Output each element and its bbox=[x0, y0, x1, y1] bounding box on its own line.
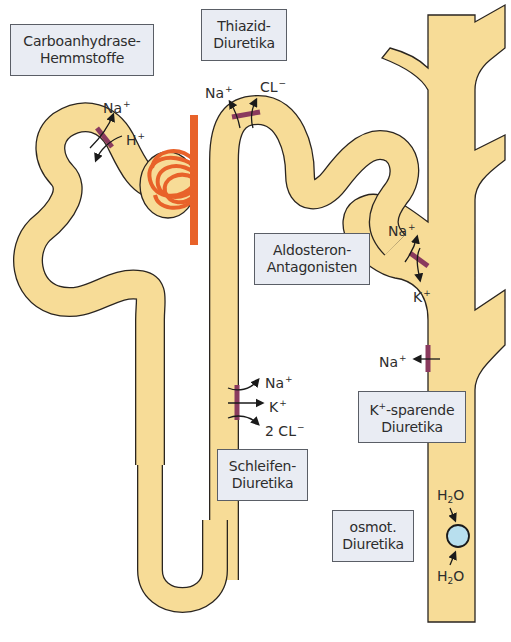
water-label-bottom: H2O bbox=[437, 569, 464, 588]
label-sup: + bbox=[379, 401, 386, 411]
nephron-diagram bbox=[0, 0, 511, 642]
aldosterone-antagonists-label: Aldosteron- Antagonisten bbox=[254, 233, 370, 285]
ion-charge: + bbox=[423, 288, 431, 298]
water-label-top: H2O bbox=[437, 488, 464, 507]
label-suffix: -sparende bbox=[386, 402, 454, 418]
label-line: Antagonisten bbox=[267, 259, 358, 276]
ion-charge: + bbox=[123, 99, 131, 109]
ion-text: Na bbox=[388, 223, 407, 239]
label-line: Aldosteron- bbox=[273, 242, 351, 259]
label-line: K+-sparende bbox=[370, 398, 455, 419]
ion-text: K bbox=[413, 289, 422, 305]
ion-text: K bbox=[269, 399, 278, 415]
loop-diuretics-label: Schleifen- Diuretika bbox=[217, 449, 308, 501]
ion-charge: − bbox=[297, 422, 305, 432]
potassium-sparing-diuretics-label: K+-sparende Diuretika bbox=[358, 391, 466, 443]
carboanhydrase-inhibitor-label: Carboanhydrase- Hemmstoffe bbox=[10, 24, 154, 76]
ion-text: Na bbox=[265, 375, 284, 391]
ion-cl-distal: CL− bbox=[260, 76, 286, 94]
ion-k-loop: K+ bbox=[269, 396, 287, 414]
ion-text: H bbox=[437, 487, 448, 503]
ion-text: Na bbox=[103, 100, 122, 116]
label-line: Diuretika bbox=[381, 419, 443, 436]
ion-na-proximal: Na+ bbox=[103, 97, 131, 115]
label-line: Diuretika bbox=[213, 35, 275, 52]
label-line: osmot. bbox=[350, 519, 397, 536]
ion-text: Na bbox=[205, 85, 224, 101]
label-line: Schleifen- bbox=[229, 458, 296, 475]
ion-text: H bbox=[126, 132, 137, 148]
ion-charge: + bbox=[225, 84, 233, 94]
ion-cl-loop: 2 CL− bbox=[265, 420, 304, 438]
ion-text: CL bbox=[260, 79, 278, 95]
label-line: Diuretika bbox=[232, 475, 294, 492]
label-line: Thiazid- bbox=[217, 18, 270, 35]
ion-text: O bbox=[453, 568, 464, 584]
ion-text: H bbox=[437, 568, 448, 584]
ion-charge: − bbox=[279, 78, 287, 88]
label-line: Hemmstoffe bbox=[40, 50, 124, 67]
ion-charge: + bbox=[285, 374, 293, 384]
osmotic-diuretics-label: osmot. Diuretika bbox=[332, 510, 414, 562]
ion-charge: + bbox=[408, 222, 416, 232]
label-line: Diuretika bbox=[342, 536, 404, 553]
osmotic-molecule bbox=[447, 525, 469, 547]
label-line: Carboanhydrase- bbox=[23, 33, 140, 50]
ion-charge: + bbox=[138, 131, 146, 141]
thiazide-diuretics-label: Thiazid- Diuretika bbox=[201, 9, 287, 61]
ion-h-proximal: H+ bbox=[126, 129, 145, 147]
blood-vessel bbox=[190, 115, 198, 245]
ion-text: O bbox=[453, 487, 464, 503]
ion-text: 2 CL bbox=[265, 423, 296, 439]
ion-charge: + bbox=[279, 398, 287, 408]
ion-na-aldosteron: Na+ bbox=[388, 220, 416, 238]
ion-text: Na bbox=[379, 354, 398, 370]
ion-k-aldosteron: K+ bbox=[413, 286, 431, 304]
label-k: K bbox=[370, 402, 379, 418]
ion-charge: + bbox=[399, 353, 407, 363]
ion-na-distal: Na+ bbox=[205, 82, 233, 100]
ion-na-collecting: Na+ bbox=[379, 351, 407, 369]
ion-na-loop: Na+ bbox=[265, 372, 293, 390]
